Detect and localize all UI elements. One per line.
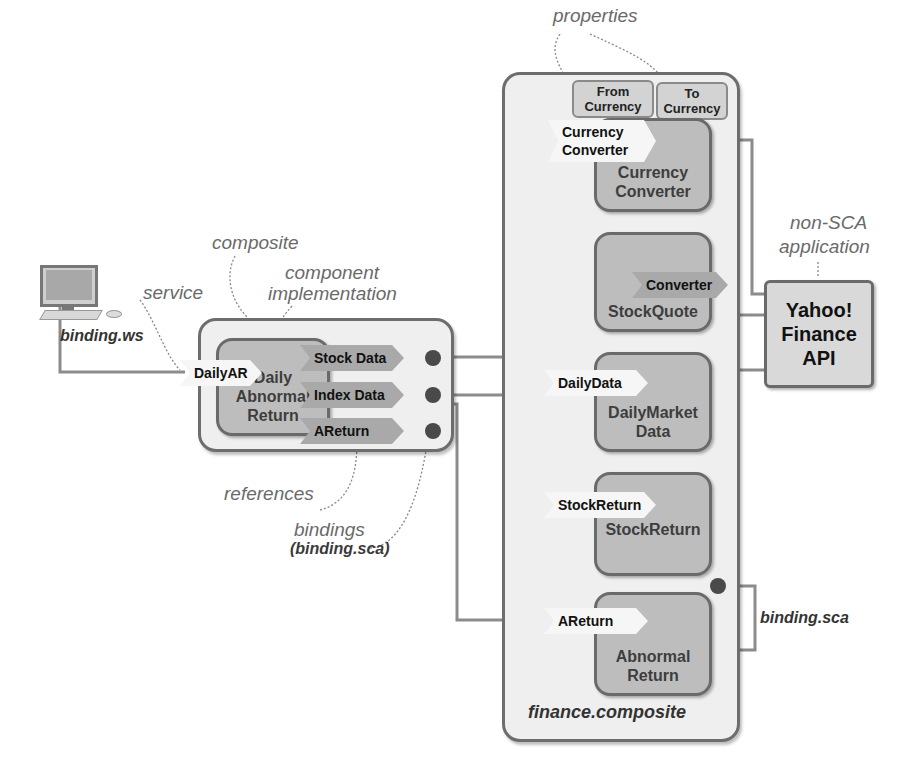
component-label-line2: Abnormal [236,388,311,405]
yahoo-label: Finance [781,323,857,345]
annotation-bindings: bindings [294,519,365,541]
binding-dot-index-data [425,387,441,403]
finance-composite-label: finance.composite [528,702,686,723]
component-label: Currency [618,164,688,181]
reference-index-data[interactable]: Index Data [300,382,404,408]
annotation-application: application [779,236,870,258]
component-label: Abnormal [616,648,691,665]
property-to-currency[interactable]: ToCurrency [656,82,728,120]
reference-stock-data[interactable]: Stock Data [300,345,404,371]
property-label: Currency [663,101,720,116]
annotation-references: references [224,483,314,505]
component-label: Data [636,423,671,440]
component-label: StockReturn [605,520,700,539]
service-label: Converter [562,142,628,158]
reference-converter[interactable]: Converter [632,272,728,298]
component-stockreturn[interactable]: StockReturn [594,472,712,576]
component-label: Converter [615,183,691,200]
annotation-implementation: implementation [268,283,397,305]
binding-dot-areturn [425,423,441,439]
yahoo-label: Yahoo! [786,299,853,321]
binding-sca-label: binding.sca [760,609,849,627]
binding-dot-stockreturn [710,578,726,594]
component-label: DailyMarket [608,404,698,421]
component-label: Return [627,667,679,684]
reference-areturn[interactable]: AReturn [300,418,404,444]
binding-dot-stock-data [425,350,441,366]
annotation-component: component [285,262,379,284]
yahoo-finance-api[interactable]: Yahoo!FinanceAPI [764,280,874,388]
property-label: Currency [584,99,641,114]
binding-ws-label: binding.ws [60,327,144,345]
service-areturn[interactable]: AReturn [544,608,648,634]
yahoo-label: API [802,347,835,369]
component-abnormal-return[interactable]: AbnormalReturn [594,592,712,696]
annotation-properties: properties [553,5,638,27]
service-stockreturn[interactable]: StockReturn [544,492,656,518]
component-dailymarket-data[interactable]: DailyMarketData [594,352,712,452]
property-label: From [597,84,630,99]
service-label: Currency [562,124,623,140]
desktop-computer-icon [38,265,128,310]
annotation-non-sca: non-SCA [790,212,867,234]
annotation-bindings-sca: (binding.sca) [290,540,390,558]
service-dailyar[interactable]: DailyAR [180,360,262,386]
component-label-line3: Return [247,407,299,424]
annotation-service: service [143,282,203,304]
component-label: StockQuote [608,302,698,321]
service-dailydata[interactable]: DailyData [544,370,648,396]
annotation-composite: composite [212,232,299,254]
property-from-currency[interactable]: FromCurrency [572,80,654,118]
service-currency-converter[interactable]: CurrencyConverter [548,120,656,162]
property-label: To [685,86,700,101]
